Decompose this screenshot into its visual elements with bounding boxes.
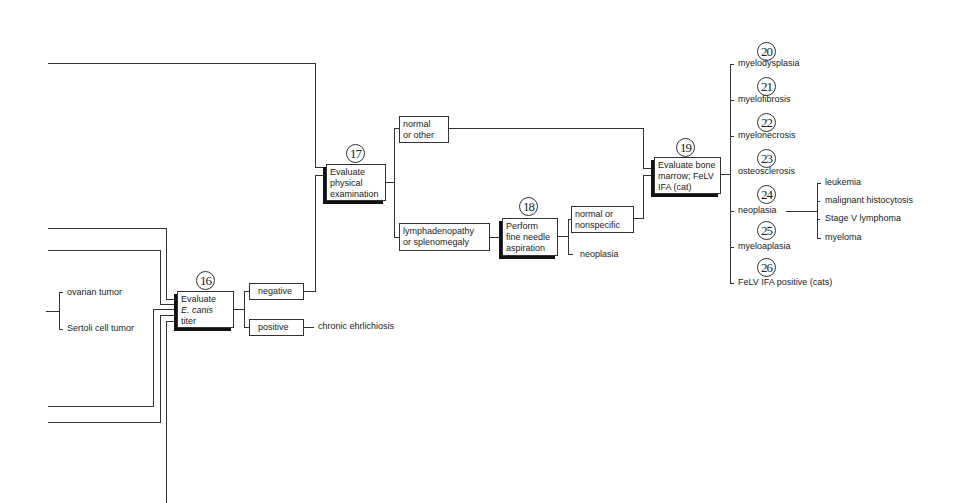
outcome-myelonecrosis: myelonecrosis bbox=[738, 130, 796, 141]
connector bbox=[48, 250, 160, 251]
node-line: Evaluate bbox=[330, 167, 382, 178]
flowchart: ovarian tumor Sertoli cell tumor 16 Eval… bbox=[0, 0, 972, 503]
connector bbox=[730, 283, 734, 284]
connector bbox=[48, 228, 166, 229]
node-line: examination bbox=[330, 189, 382, 200]
connector bbox=[730, 100, 734, 101]
node-line-italic: E. canis bbox=[181, 305, 213, 315]
connector bbox=[48, 422, 161, 423]
connector bbox=[730, 211, 734, 212]
node-line: IFA (cat) bbox=[658, 182, 717, 193]
node-evaluate-ecanis-titer[interactable]: Evaluate E. canis titer bbox=[177, 291, 234, 328]
connector bbox=[386, 182, 394, 183]
neoplasia-malignant-histocytosis: malignant histocytosis bbox=[825, 195, 913, 206]
connector bbox=[817, 238, 821, 239]
connector bbox=[59, 292, 63, 293]
connector bbox=[558, 236, 568, 237]
neoplasia-leukemia: leukemia bbox=[825, 177, 861, 188]
node-line: lymphadenopathy bbox=[403, 226, 486, 237]
connector bbox=[730, 64, 731, 283]
connector bbox=[568, 219, 569, 255]
connector bbox=[817, 183, 821, 184]
bracket bbox=[59, 292, 60, 330]
connector bbox=[153, 309, 154, 406]
outcome-myeloaplasia: myeloaplasia bbox=[738, 241, 791, 252]
bracket bbox=[817, 183, 818, 239]
outcome-felv-ifa-positive: FeLV IFA positive (cats) bbox=[738, 277, 832, 288]
outcome-neoplasia-fna: neoplasia bbox=[580, 249, 619, 260]
connector bbox=[730, 247, 734, 248]
connector bbox=[234, 309, 244, 310]
connector bbox=[48, 406, 154, 407]
connector bbox=[160, 250, 161, 304]
connector bbox=[449, 128, 643, 129]
connector bbox=[817, 201, 820, 202]
result-lymphadenopathy-or-splenomegaly[interactable]: lymphadenopathy or splenomegaly bbox=[399, 223, 490, 251]
node-line: normal bbox=[403, 119, 445, 130]
connector bbox=[643, 175, 644, 219]
neoplasia-stage-v-lymphoma: Stage V lymphoma bbox=[825, 213, 901, 224]
connector bbox=[730, 136, 734, 137]
step-number-18: 18 bbox=[519, 197, 538, 216]
step-number-16: 16 bbox=[196, 271, 215, 290]
node-evaluate-physical-examination[interactable]: Evaluate physical examination bbox=[326, 164, 386, 201]
node-line: marrow; FeLV bbox=[658, 171, 717, 182]
outcome-sertoli-cell-tumor: Sertoli cell tumor bbox=[67, 323, 134, 334]
outcome-osteosclerosis: osteosclerosis bbox=[738, 166, 795, 177]
connector bbox=[160, 315, 161, 422]
outcome-ovarian-tumor: ovarian tumor bbox=[67, 287, 122, 298]
outcome-myelodysplasia: myelodysplasia bbox=[738, 58, 800, 69]
connector bbox=[166, 321, 167, 503]
connector bbox=[730, 64, 734, 65]
step-number-19: 19 bbox=[676, 138, 695, 157]
result-normal-or-nonspecific[interactable]: normal or nonspecific bbox=[571, 206, 634, 233]
node-line: fine needle bbox=[506, 232, 554, 243]
node-line: or other bbox=[403, 130, 445, 141]
node-line: Perform bbox=[506, 221, 554, 232]
node-line: Evaluate bbox=[181, 294, 230, 305]
connector bbox=[721, 174, 730, 175]
node-evaluate-bone-marrow[interactable]: Evaluate bone marrow; FeLV IFA (cat) bbox=[654, 157, 721, 194]
node-line: or splenomegaly bbox=[403, 237, 486, 248]
connector bbox=[304, 327, 314, 328]
connector bbox=[643, 128, 644, 168]
connector bbox=[394, 128, 395, 238]
connector bbox=[153, 309, 176, 310]
connector bbox=[817, 219, 820, 220]
step-number-26: 26 bbox=[757, 258, 776, 277]
outcome-chronic-ehrlichiosis: chronic ehrlichiosis bbox=[318, 321, 394, 332]
connector bbox=[48, 63, 316, 64]
result-normal-or-other[interactable]: normal or other bbox=[399, 116, 449, 143]
result-negative[interactable]: negative bbox=[249, 283, 304, 300]
outcome-neoplasia-marrow: neoplasia bbox=[738, 205, 777, 216]
connector bbox=[166, 228, 167, 299]
node-line: Evaluate bone bbox=[658, 160, 717, 171]
outcome-myelofibrosis: myelofibrosis bbox=[738, 94, 791, 105]
connector bbox=[303, 291, 316, 292]
connector bbox=[46, 311, 60, 312]
connector bbox=[244, 291, 245, 328]
connector bbox=[315, 63, 316, 167]
node-line: normal or bbox=[575, 209, 630, 220]
connector bbox=[59, 329, 63, 330]
step-number-25: 25 bbox=[757, 221, 776, 240]
node-line: nonspecific bbox=[575, 220, 630, 231]
step-number-24: 24 bbox=[757, 185, 776, 204]
connector bbox=[634, 218, 643, 219]
neoplasia-myeloma: myeloma bbox=[825, 232, 862, 243]
node-perform-fine-needle-aspiration[interactable]: Perform fine needle aspiration bbox=[502, 218, 558, 256]
connector bbox=[786, 211, 817, 212]
connector bbox=[568, 254, 573, 255]
step-number-17: 17 bbox=[346, 144, 365, 163]
node-line: physical bbox=[330, 178, 382, 189]
result-positive[interactable]: positive bbox=[249, 319, 304, 336]
connector bbox=[315, 175, 316, 291]
node-line: titer bbox=[181, 316, 230, 327]
node-line: aspiration bbox=[506, 243, 554, 254]
